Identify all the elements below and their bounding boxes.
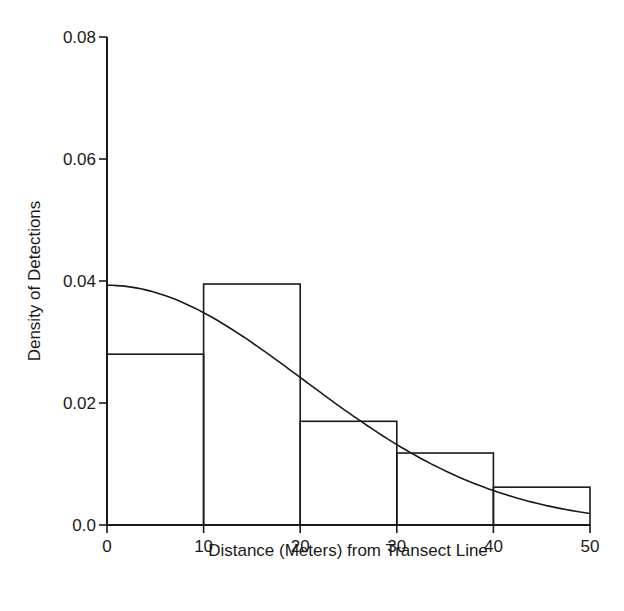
y-axis-ticks: 0.00.020.040.060.08 [63, 28, 107, 535]
y-tick-label: 0.06 [63, 150, 96, 169]
x-axis-title: Distance (Meters) from Transect Line [208, 541, 488, 560]
histogram-bars [107, 284, 590, 525]
y-axis-title: Density of Detections [25, 201, 44, 362]
histogram-bar [300, 421, 397, 525]
histogram-chart: 0.00.020.040.060.08 01020304050 Distance… [0, 0, 624, 611]
histogram-bar [107, 354, 204, 525]
y-tick-label: 0.02 [63, 394, 96, 413]
fitted-curve [107, 285, 590, 513]
x-tick-label: 50 [581, 537, 600, 556]
x-tick-label: 0 [102, 537, 111, 556]
y-tick-label: 0.08 [63, 28, 96, 47]
y-tick-label: 0.04 [63, 272, 96, 291]
y-tick-label: 0.0 [72, 516, 96, 535]
histogram-bar [397, 453, 494, 525]
histogram-bar [493, 487, 590, 525]
